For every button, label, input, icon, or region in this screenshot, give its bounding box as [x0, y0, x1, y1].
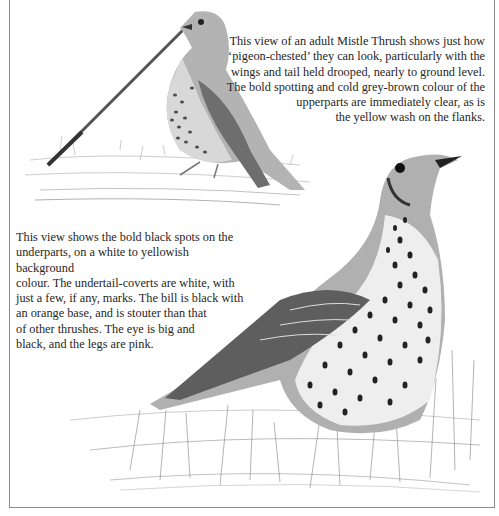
- caption-line: black, and the legs are pink.: [16, 337, 246, 352]
- caption-line: This view of an adult Mistle Thrush show…: [225, 34, 485, 49]
- caption-line: an orange base, and is stouter than that: [16, 306, 246, 321]
- caption-spotted-underparts: This view shows the bold black spots on …: [16, 230, 246, 352]
- caption-line: upperparts are immediately clear, as is: [225, 95, 485, 110]
- caption-line: just a few, if any, marks. The bill is b…: [16, 291, 246, 306]
- caption-line: wings and tail held drooped, nearly to g…: [225, 65, 485, 80]
- caption-line: colour. The undertail-coverts are white,…: [16, 276, 246, 291]
- caption-line: underparts, on a white to yellowish back…: [16, 245, 246, 276]
- caption-adult-pigeon-chested: This view of an adult Mistle Thrush show…: [225, 34, 485, 126]
- caption-line: of other thrushes. The eye is big and: [16, 322, 246, 337]
- caption-line: ‘pigeon-chested’ they can look, particul…: [225, 49, 485, 64]
- caption-line: the yellow wash on the flanks.: [225, 110, 485, 125]
- caption-line: The bold spotting and cold grey-brown co…: [225, 80, 485, 95]
- caption-line: This view shows the bold black spots on …: [16, 230, 246, 245]
